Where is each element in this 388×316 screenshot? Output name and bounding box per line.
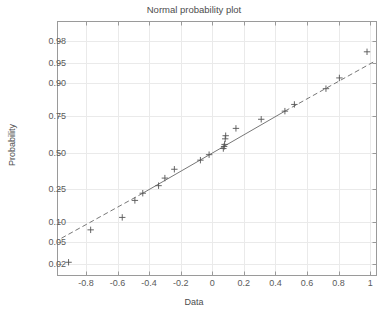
y-tick-label: 0.05: [48, 237, 66, 247]
y-tick-label: 0.50: [48, 148, 66, 158]
data-point-marker: [233, 125, 239, 131]
reference-line-dashed-lower: [61, 193, 142, 238]
axis-tick-marks: [58, 22, 377, 276]
x-tick-label: 0: [210, 278, 215, 288]
data-point-marker: [119, 214, 125, 220]
x-tick-label: -0.8: [78, 278, 94, 288]
data-point-marker: [282, 108, 288, 114]
x-tick-label: 0.2: [238, 278, 251, 288]
y-tick-label: 0.95: [48, 58, 66, 68]
data-point-marker: [162, 175, 168, 181]
x-tick-label: 0.4: [269, 278, 282, 288]
data-point-marker: [323, 85, 329, 91]
data-point-marker: [206, 151, 212, 157]
data-point-marker: [140, 190, 146, 196]
data-point-marker: [258, 116, 264, 122]
x-tick-label: 0.6: [301, 278, 314, 288]
data-point-marker: [171, 166, 177, 172]
axes-frame: [58, 22, 377, 276]
y-tick-label: 0.02: [48, 259, 66, 269]
x-tick-label: 1: [368, 278, 373, 288]
data-point-marker: [197, 157, 203, 163]
x-tick-label: -0.2: [173, 278, 189, 288]
normal-probability-plot-figure: Normal probability plot Data Probability…: [0, 0, 388, 316]
data-point-marker: [132, 197, 138, 203]
y-tick-label: 0.98: [48, 36, 66, 46]
grid-lines: [58, 22, 377, 276]
data-point-marker: [87, 227, 93, 233]
x-tick-label: -0.6: [110, 278, 126, 288]
y-tick-label: 0.90: [48, 78, 66, 88]
data-point-marker: [222, 136, 228, 142]
x-tick-label: 0.8: [332, 278, 345, 288]
data-point-marker: [155, 182, 161, 188]
data-point-marker: [222, 133, 228, 139]
x-tick-label: -0.4: [141, 278, 157, 288]
data-points: [65, 49, 370, 266]
y-tick-label: 0.10: [48, 217, 66, 227]
reference-line-solid: [143, 111, 285, 193]
y-tick-label: 0.25: [48, 184, 66, 194]
y-tick-label: 0.75: [48, 111, 66, 121]
data-point-marker: [364, 49, 370, 55]
reference-line-dashed-upper: [285, 62, 373, 111]
